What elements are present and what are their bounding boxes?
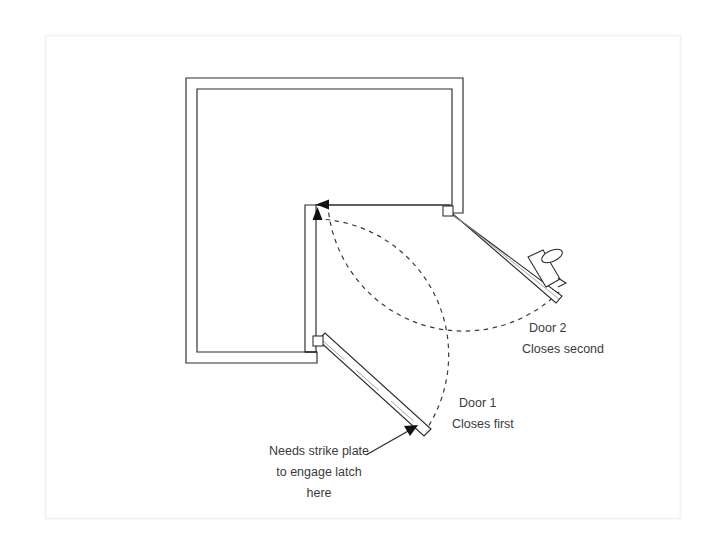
door1-leaf <box>313 333 431 436</box>
strike-plate-leader <box>366 425 418 455</box>
strike-plate-note-line1: Needs strike plate <box>269 444 369 458</box>
strike-plate-note-line3: here <box>306 486 331 500</box>
door1-hinge <box>313 336 323 346</box>
door1-swing-arc <box>318 219 449 433</box>
door1-order-label: Closes first <box>452 417 514 431</box>
door2-hinge <box>443 206 453 216</box>
door1-leaf-body <box>318 333 431 436</box>
door2-label-group: Door 2 Closes second <box>522 321 604 356</box>
strike-plate-leader-arrowhead <box>404 425 418 436</box>
wall-inner-face <box>197 89 452 352</box>
wall-group <box>186 78 463 363</box>
door2-order-label: Closes second <box>522 342 604 356</box>
door1-swing-arrowhead <box>313 207 323 220</box>
strike-plate-note-line2: to engage latch <box>276 465 362 479</box>
door2-swing-arrowhead <box>316 200 329 210</box>
door-latch-bolt-icon <box>558 278 566 287</box>
door2-swing-group <box>316 200 559 332</box>
door1-leaf-seam <box>322 340 427 433</box>
door2-name-label: Door 2 <box>529 321 567 335</box>
strike-plate-note-group: Needs strike plate to engage latch here <box>269 444 369 500</box>
door1-swing-group <box>313 207 449 433</box>
diagram-root: Door 1 Closes first Door 2 Closes second… <box>0 0 724 551</box>
door1-label-group: Door 1 Closes first <box>452 396 514 431</box>
door2-leaf <box>443 206 566 303</box>
door-swing-diagram: Door 1 Closes first Door 2 Closes second… <box>0 0 724 551</box>
strike-plate-leader-line <box>366 430 410 455</box>
wall-outer-face <box>186 78 463 363</box>
door1-name-label: Door 1 <box>459 396 497 410</box>
